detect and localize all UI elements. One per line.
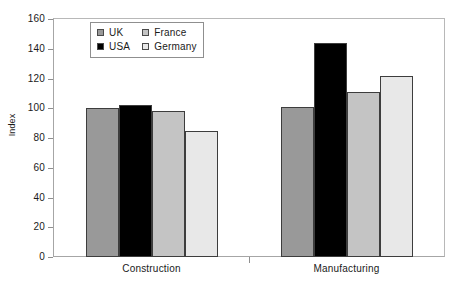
- legend-label-uk: UK: [109, 26, 123, 39]
- y-tick-label: 80: [33, 131, 45, 144]
- bar-chart: Index 020406080100120140160 Construction…: [0, 0, 460, 281]
- y-tick-label: 120: [28, 72, 45, 85]
- y-tick-mark: [48, 138, 53, 139]
- y-tick-mark: [48, 19, 53, 20]
- y-axis-tick: 140: [0, 49, 53, 50]
- legend: UKFranceUSAGermany: [90, 22, 204, 58]
- legend-label-germany: Germany: [154, 40, 197, 53]
- bar-uk-manufacturing: [281, 107, 314, 257]
- y-tick-mark: [48, 198, 53, 199]
- bar-usa-construction: [119, 105, 152, 257]
- y-axis-tick: 20: [0, 227, 53, 228]
- y-tick-label: 160: [28, 12, 45, 25]
- legend-swatch-uk-icon: [97, 29, 104, 36]
- x-axis-label-manufacturing: Manufacturing: [267, 262, 427, 276]
- y-tick-label: 140: [28, 42, 45, 55]
- y-axis-tick: 0: [0, 257, 53, 258]
- y-axis-tick: 160: [0, 19, 53, 20]
- y-tick-mark: [48, 168, 53, 169]
- y-axis-tick: 120: [0, 79, 53, 80]
- legend-label-usa: USA: [109, 40, 130, 53]
- legend-swatch-germany-icon: [142, 43, 149, 50]
- y-tick-label: 0: [39, 250, 45, 263]
- legend-item-uk: UK: [97, 26, 130, 39]
- bar-germany-manufacturing: [380, 76, 413, 257]
- bar-germany-construction: [185, 131, 218, 257]
- bar-france-manufacturing: [347, 92, 380, 257]
- y-tick-mark: [48, 227, 53, 228]
- y-axis-tick: 40: [0, 198, 53, 199]
- legend-swatch-usa-icon: [97, 43, 104, 50]
- legend-swatch-france-icon: [142, 29, 149, 36]
- y-tick-mark: [48, 79, 53, 80]
- y-tick-label: 60: [33, 161, 45, 174]
- legend-item-germany: Germany: [142, 40, 197, 53]
- y-tick-mark: [48, 49, 53, 50]
- y-tick-label: 40: [33, 191, 45, 204]
- y-axis-title: Index: [7, 95, 17, 155]
- legend-item-usa: USA: [97, 40, 130, 53]
- y-axis-tick: 60: [0, 168, 53, 169]
- bar-france-construction: [152, 111, 185, 257]
- x-axis-label-construction: Construction: [72, 262, 232, 276]
- y-tick-label: 100: [28, 101, 45, 114]
- legend-label-france: France: [154, 26, 186, 39]
- y-tick-mark: [48, 108, 53, 109]
- y-tick-label: 20: [33, 220, 45, 233]
- bar-usa-manufacturing: [314, 43, 347, 257]
- x-axis-category-divider: [249, 257, 250, 263]
- bar-uk-construction: [86, 108, 119, 257]
- y-tick-mark: [48, 257, 53, 258]
- y-axis-tick: 100: [0, 108, 53, 109]
- legend-item-france: France: [142, 26, 197, 39]
- y-axis-tick: 80: [0, 138, 53, 139]
